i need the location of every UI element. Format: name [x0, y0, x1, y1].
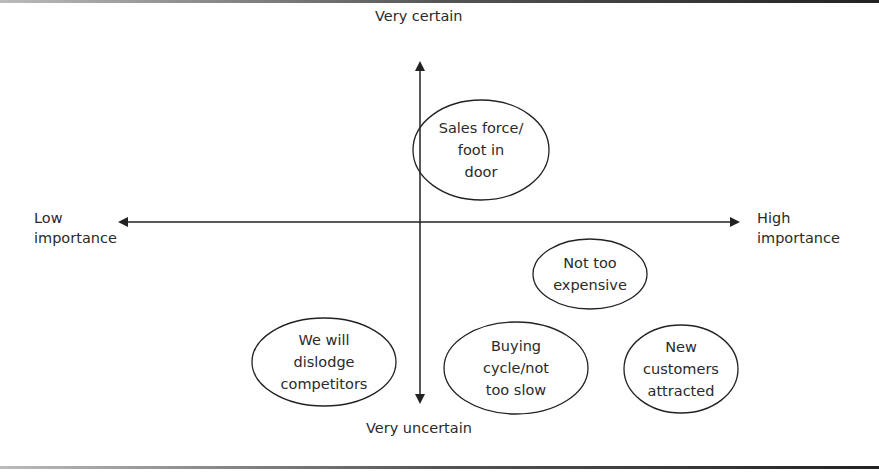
quadrant-diagram — [0, 0, 879, 476]
axis-label-high-importance: High importance — [757, 208, 840, 248]
axis-label-very-uncertain: Very uncertain — [366, 418, 472, 438]
node-dislodge-competitors: We willdislodgecompetitors — [252, 318, 396, 406]
node-not-too-expensive: Not tooexpensive — [533, 239, 647, 309]
node-text-line: too slow — [486, 379, 546, 401]
axis-label-low-line2: importance — [34, 228, 117, 248]
axis-label-high-line1: High — [757, 208, 840, 228]
node-text-line: Buying — [491, 335, 541, 357]
node-text-line: cycle/not — [483, 357, 549, 379]
axis-label-low-line1: Low — [34, 208, 117, 228]
node-text-line: customers — [643, 358, 719, 380]
node-text-line: dislodge — [293, 351, 354, 373]
node-text-line: expensive — [553, 274, 627, 296]
axis-label-high-line2: importance — [757, 228, 840, 248]
axis-label-very-certain: Very certain — [375, 6, 463, 26]
node-text-line: door — [465, 161, 498, 183]
node-text-line: Sales force/ — [439, 117, 524, 139]
node-text-line: We will — [299, 329, 350, 351]
node-buying-cycle: Buyingcycle/nottoo slow — [444, 322, 588, 414]
node-text-line: attracted — [648, 380, 715, 402]
axis-label-low-importance: Low importance — [34, 208, 117, 248]
node-text-line: foot in — [458, 139, 504, 161]
node-new-customers: Newcustomersattracted — [624, 325, 738, 413]
node-text-line: competitors — [281, 373, 368, 395]
node-sales-force: Sales force/foot indoor — [413, 100, 549, 200]
node-text-line: New — [665, 336, 697, 358]
node-text-line: Not too — [563, 252, 616, 274]
